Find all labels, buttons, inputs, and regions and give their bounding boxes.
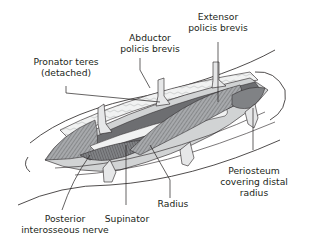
label-abductor-pollicis-brevis: Abductor policis brevis	[110, 32, 190, 54]
label-extensor-pollicis-brevis: Extensor policis brevis	[178, 11, 258, 33]
extensor-line2: policis brevis	[178, 22, 258, 33]
pronator-line2: (detached)	[24, 67, 108, 78]
radius-text: Radius	[155, 198, 191, 209]
label-posterior-interosseous-nerve: Posterior interosseous nerve	[20, 213, 110, 235]
periosteum-line1: Periosteum	[213, 165, 295, 176]
abductor-line1: Abductor	[110, 32, 190, 43]
posterior-line1: Posterior	[20, 213, 110, 224]
abductor-line2: policis brevis	[110, 43, 190, 54]
supinator-text: Supinator	[100, 213, 154, 224]
periosteum-line2: covering distal	[213, 176, 295, 187]
posterior-line2: interosseous nerve	[20, 224, 110, 235]
label-supinator: Supinator	[100, 213, 154, 224]
label-radius: Radius	[155, 198, 191, 209]
periosteum-line3: radius	[213, 187, 295, 198]
pronator-line1: Pronator teres	[24, 56, 108, 67]
label-periosteum: Periosteum covering distal radius	[213, 165, 295, 198]
extensor-line1: Extensor	[178, 11, 258, 22]
label-pronator-teres: Pronator teres (detached)	[24, 56, 108, 78]
